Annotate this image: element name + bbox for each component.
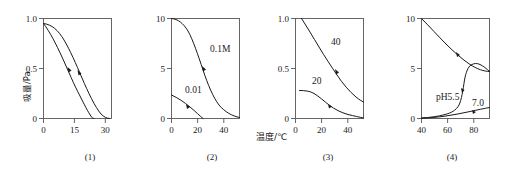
panel-3: 1.0 0.5 0 0 20 40 40 20 温度/℃ [252, 0, 382, 174]
ytick-label-1: 5 [411, 64, 416, 74]
panel-4: 10 5 0 40 60 80 pH5.5 7.0 [378, 0, 511, 174]
xtick-label-2: 80 [469, 125, 479, 135]
panel-2: 10 5 0 0 20 40 0.1M 0.01 [128, 0, 258, 174]
panel-1: 1.0 0.5 0 0 15 30 吸量/Pa [0, 0, 130, 174]
caption-panel-1: (1) [70, 152, 110, 162]
plot-frame [172, 19, 240, 119]
xtick-label-0: 0 [41, 125, 46, 135]
caption-panel-4: (4) [432, 152, 472, 162]
curve-label-40: 40 [331, 37, 341, 47]
ytick-label-2: 10 [156, 14, 166, 24]
curve-label-0.01: 0.01 [185, 85, 202, 95]
panel-4-svg: 10 5 0 40 60 80 pH5.5 7.0 [378, 0, 511, 145]
xtick-label-0: 40 [417, 125, 427, 135]
ytick-label-2: 1.0 [26, 14, 38, 24]
ytick-label-2: 1.0 [278, 14, 290, 24]
arrow-marker-0.1M [202, 66, 206, 72]
figure-container: 1.0 0.5 0 0 15 30 吸量/Pa 10 5 0 [0, 0, 511, 174]
ytick-label-1: 5 [161, 64, 166, 74]
xtick-label-1: 20 [193, 125, 203, 135]
xtick-label-1: 60 [443, 125, 453, 135]
curve-descending [422, 19, 490, 72]
xtick-label-2: 40 [219, 125, 229, 135]
plot-frame [296, 19, 364, 119]
ytick-label-0: 0 [411, 114, 416, 124]
xtick-label-0: 0 [169, 125, 174, 135]
xtick-label-0: 0 [293, 125, 298, 135]
panel-3-svg: 1.0 0.5 0 0 20 40 40 20 [252, 0, 382, 145]
curve-40 [302, 19, 364, 103]
caption-panel-2: (2) [192, 152, 232, 162]
x-axis-label: 温度/℃ [256, 130, 287, 143]
ytick-label-2: 10 [406, 14, 416, 24]
ytick-label-0: 0 [161, 114, 166, 124]
curve-label-ph7.0: 7.0 [472, 98, 484, 108]
xtick-label-1: 20 [317, 125, 327, 135]
ytick-label-1: 0.5 [278, 64, 290, 74]
curve-label-ph5.5: pH5.5 [436, 92, 460, 102]
xtick-label-2: 40 [343, 125, 353, 135]
ytick-label-0: 0 [285, 114, 290, 124]
curve-label-20: 20 [312, 76, 322, 86]
curve-0.1M [172, 19, 240, 118]
ytick-label-0: 0 [33, 114, 38, 124]
xtick-label-1: 15 [70, 125, 80, 135]
curve-label-0.1M: 0.1M [210, 44, 231, 54]
y-axis-label: 吸量/Pa [20, 71, 32, 102]
caption-panel-3: (3) [308, 152, 348, 162]
xtick-label-2: 30 [101, 125, 111, 135]
curve-upper-sigmoid [44, 24, 110, 119]
arrow-marker-20 [328, 104, 332, 109]
panel-2-svg: 10 5 0 0 20 40 0.1M 0.01 [128, 0, 258, 145]
